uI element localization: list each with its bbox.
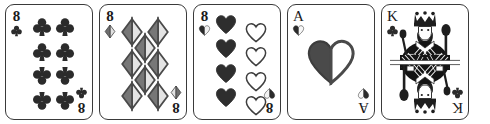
corner-index-bottom-right: A	[358, 88, 369, 115]
rank-label: 8	[172, 100, 180, 115]
rank-label: K	[452, 100, 463, 115]
heart-icon	[264, 88, 275, 99]
rank-label: 8	[266, 100, 274, 115]
club-pip	[33, 17, 51, 37]
corner-index-bottom-right: 8	[171, 86, 181, 115]
corner-index-bottom-right: K	[452, 87, 463, 115]
card-eight-of-hearts[interactable]: 8 8	[193, 4, 281, 120]
heart-pip	[246, 47, 272, 66]
club-pip	[56, 66, 74, 86]
corner-index-bottom-right: 8	[264, 88, 275, 115]
playing-card-hand: 8 8	[0, 0, 490, 124]
card-ace-of-hearts[interactable]: A A	[287, 4, 375, 120]
heart-pip	[216, 88, 242, 107]
rank-label: 8	[78, 100, 86, 115]
heart-pip	[216, 39, 242, 58]
diamond-pip	[148, 83, 168, 109]
club-pip	[56, 42, 74, 62]
heart-icon	[358, 88, 369, 99]
card-eight-of-diamonds[interactable]: 8 8	[99, 4, 187, 120]
card-eight-of-clubs[interactable]: 8 8	[5, 4, 93, 120]
rank-label: A	[358, 100, 369, 115]
heart-pip	[246, 23, 272, 42]
corner-index-bottom-right: 8	[76, 87, 87, 115]
heart-pip	[216, 64, 242, 83]
club-icon	[452, 87, 463, 99]
club-icon	[76, 87, 87, 99]
large-heart-pip	[308, 40, 354, 84]
heart-column-left	[216, 15, 242, 107]
diamond-pip	[122, 83, 142, 109]
club-pip	[33, 91, 51, 111]
club-pip-grid	[30, 15, 76, 113]
club-pip	[33, 66, 51, 86]
diamond-icon	[171, 86, 181, 99]
card-king-of-clubs[interactable]: K	[381, 4, 469, 120]
club-pip	[33, 42, 51, 62]
club-pip	[56, 17, 74, 37]
club-pip	[56, 91, 74, 111]
court-figure-king	[390, 10, 460, 115]
heart-pip	[216, 15, 242, 34]
